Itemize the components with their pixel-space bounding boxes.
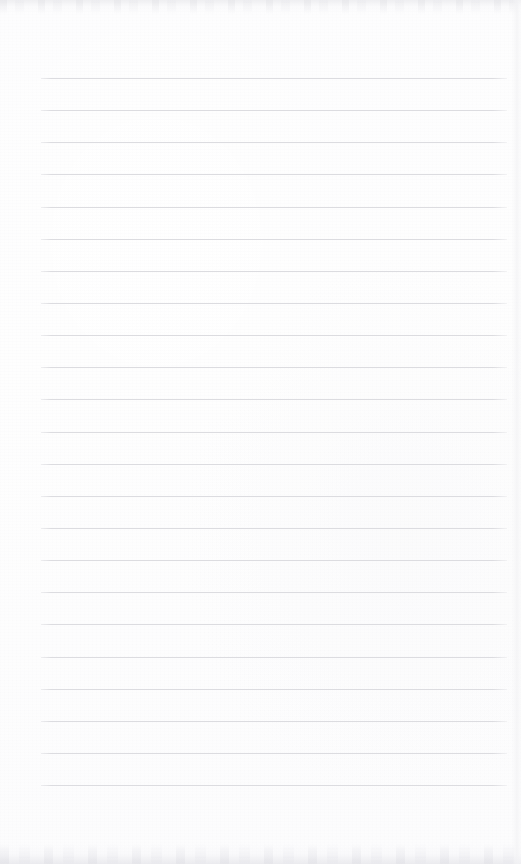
- paper-background: [0, 0, 521, 864]
- scanned-page: [0, 0, 521, 864]
